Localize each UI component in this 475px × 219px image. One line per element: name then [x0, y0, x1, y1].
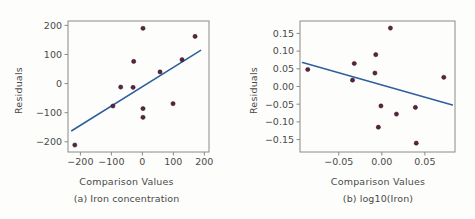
- data-point: [376, 125, 380, 129]
- data-point: [379, 104, 383, 108]
- x-tick-label: −0.05: [324, 156, 353, 167]
- data-point: [388, 26, 392, 30]
- y-tick-label: 0.10: [273, 45, 294, 56]
- y-tick-label: −0.05: [265, 99, 294, 110]
- data-point: [132, 59, 136, 63]
- y-tick-label: 0.05: [273, 63, 294, 74]
- scatter-plot-b: −0.050.000.050.150.100.050.00−0.05−0.10−…: [237, 0, 475, 170]
- x-tick-label: −100: [98, 156, 124, 167]
- panel-caption-a: (a) Iron concentration: [8, 193, 245, 204]
- data-point: [158, 70, 162, 74]
- x-axis-label-b: Comparison Values: [259, 176, 475, 187]
- y-tick-label: −0.10: [265, 116, 294, 127]
- data-point: [306, 67, 310, 71]
- scatter-plot-a: −200−10001002002001000−100−200: [0, 0, 237, 170]
- data-point: [111, 104, 115, 108]
- data-point: [171, 102, 175, 106]
- x-tick-label: 200: [195, 156, 213, 167]
- data-point: [413, 105, 417, 109]
- y-tick-label: 100: [44, 49, 62, 60]
- x-tick-label: −200: [67, 156, 93, 167]
- y-tick-label: 200: [44, 20, 62, 31]
- data-point: [373, 71, 377, 75]
- data-point: [350, 78, 354, 82]
- data-point: [374, 53, 378, 57]
- data-point: [119, 85, 123, 89]
- y-axis-label-b: Residuals: [248, 67, 259, 114]
- y-tick-label: −100: [36, 107, 62, 118]
- panel-caption-b: (b) log10(Iron): [259, 193, 475, 204]
- data-point: [442, 75, 446, 79]
- y-tick-label: −0.15: [265, 134, 294, 145]
- y-tick-label: 0.00: [273, 81, 294, 92]
- y-tick-label: 0: [56, 78, 62, 89]
- x-tick-label: 0.00: [371, 156, 392, 167]
- residual-plots-figure: −200−10001002002001000−100−200 Residuals…: [0, 0, 475, 219]
- y-tick-label: 0.15: [273, 28, 294, 39]
- data-point: [193, 34, 197, 38]
- data-point: [141, 107, 145, 111]
- x-axis-label-a: Comparison Values: [8, 176, 245, 187]
- fit-line: [72, 50, 201, 130]
- x-tick-label: 0.05: [414, 156, 435, 167]
- data-point: [141, 26, 145, 30]
- panel-log10-iron: −0.050.000.050.150.100.050.00−0.05−0.10−…: [237, 0, 475, 219]
- x-tick-label: 100: [164, 156, 182, 167]
- fit-line: [303, 62, 453, 104]
- data-point: [131, 85, 135, 89]
- data-point: [414, 141, 418, 145]
- y-axis-label-a: Residuals: [13, 67, 24, 114]
- x-tick-label: 0: [139, 156, 145, 167]
- data-point: [141, 115, 145, 119]
- data-point: [394, 112, 398, 116]
- y-tick-label: −200: [36, 136, 62, 147]
- data-point: [73, 143, 77, 147]
- data-point: [352, 61, 356, 65]
- data-point: [180, 58, 184, 62]
- panel-iron-concentration: −200−10001002002001000−100−200 Residuals…: [0, 0, 237, 219]
